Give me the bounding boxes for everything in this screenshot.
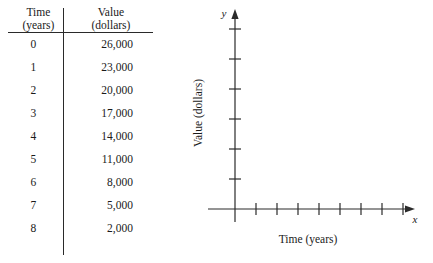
table-head: Time (years) Value (dollars) (8, 6, 153, 33)
cell-time: 6 (8, 171, 69, 194)
table-row: 6 8,000 (8, 171, 153, 194)
cell-value-text: 26,000 (89, 38, 133, 51)
cell-time: 5 (8, 148, 69, 171)
cell-time: 1 (8, 56, 69, 79)
cell-value: 8,000 (69, 171, 153, 194)
cell-time: 4 (8, 125, 69, 148)
table-column-divider (63, 8, 64, 255)
y-axis-title: Value (dollars) (192, 79, 205, 147)
cell-time: 0 (8, 33, 69, 57)
y-axis-letter: y (221, 7, 227, 19)
data-table-panel: Time (years) Value (dollars) 0 26,000 1 … (0, 0, 170, 263)
table-row: 2 20,000 (8, 79, 153, 102)
column-header-time: Time (years) (8, 6, 69, 33)
table-row: 0 26,000 (8, 33, 153, 57)
cell-value: 23,000 (69, 56, 153, 79)
column-header-value-line2: (dollars) (69, 19, 153, 32)
cell-value: 26,000 (69, 33, 153, 57)
x-axis-title: Time (years) (279, 233, 338, 246)
x-axis-letter: x (412, 213, 418, 225)
coordinate-plane-svg: y x Value (dollars) Time (years) (180, 0, 433, 263)
cell-value: 14,000 (69, 125, 153, 148)
cell-value-text: 17,000 (89, 107, 133, 120)
table-row: 5 11,000 (8, 148, 153, 171)
cell-value: 11,000 (69, 148, 153, 171)
column-header-value: Value (dollars) (69, 6, 153, 33)
cell-value-text: 8,000 (89, 176, 133, 189)
cell-value-text: 20,000 (89, 84, 133, 97)
column-header-value-line1: Value (69, 6, 153, 19)
y-axis-arrowhead (231, 9, 238, 19)
cell-time: 7 (8, 194, 69, 217)
column-header-time-line2: (years) (8, 19, 69, 32)
column-header-time-line1: Time (8, 6, 69, 19)
table-header-row: Time (years) Value (dollars) (8, 6, 153, 33)
cell-value: 20,000 (69, 79, 153, 102)
cell-value: 5,000 (69, 194, 153, 217)
x-axis-arrowhead (405, 205, 415, 212)
cell-time: 3 (8, 102, 69, 125)
table-body: 0 26,000 1 23,000 2 20,000 3 17,000 4 14… (8, 33, 153, 241)
table-row: 7 5,000 (8, 194, 153, 217)
cell-value-text: 5,000 (89, 199, 133, 212)
cell-value-text: 23,000 (89, 61, 133, 74)
table-row: 8 2,000 (8, 217, 153, 240)
cell-value: 17,000 (69, 102, 153, 125)
table-row: 3 17,000 (8, 102, 153, 125)
value-table: Time (years) Value (dollars) 0 26,000 1 … (8, 6, 153, 240)
cell-value-text: 14,000 (89, 130, 133, 143)
cell-time: 2 (8, 79, 69, 102)
cell-value: 2,000 (69, 217, 153, 240)
table-row: 1 23,000 (8, 56, 153, 79)
table-row: 4 14,000 (8, 125, 153, 148)
cell-value-text: 11,000 (89, 153, 133, 166)
cell-time: 8 (8, 217, 69, 240)
coordinate-plane-panel: y x Value (dollars) Time (years) (180, 0, 433, 263)
cell-value-text: 2,000 (89, 222, 133, 235)
